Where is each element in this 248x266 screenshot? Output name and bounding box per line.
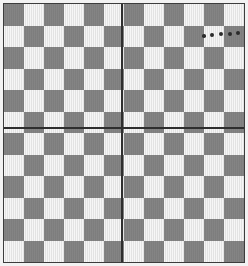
checker-cell xyxy=(24,90,45,112)
checker-cell xyxy=(144,241,165,263)
checker-cell xyxy=(124,112,145,134)
checker-cell xyxy=(4,112,25,134)
checker-cell xyxy=(204,241,225,263)
checker-cell xyxy=(204,90,225,112)
checker-cell xyxy=(144,155,165,177)
checker-cell xyxy=(4,241,25,263)
checker-cell xyxy=(204,112,225,134)
checker-cell xyxy=(84,4,105,26)
checker-cell xyxy=(24,133,45,155)
checker-cell xyxy=(144,26,165,48)
checker-cell xyxy=(204,155,225,177)
checker-cell xyxy=(64,112,85,134)
marker-dot xyxy=(244,31,245,35)
checker-cell xyxy=(44,155,65,177)
checker-cell xyxy=(64,90,85,112)
checker-cell xyxy=(84,112,105,134)
checker-cell xyxy=(184,176,205,198)
checker-cell xyxy=(84,90,105,112)
checker-cell xyxy=(164,198,185,220)
checker-cell xyxy=(44,133,65,155)
checker-cell xyxy=(84,176,105,198)
checker-cell xyxy=(44,176,65,198)
checker-cell xyxy=(4,47,25,69)
checker-cell xyxy=(4,133,25,155)
checker-cell xyxy=(4,198,25,220)
checker-cell xyxy=(4,26,25,48)
checker-cell xyxy=(4,90,25,112)
checker-cell xyxy=(164,90,185,112)
checker-cell xyxy=(164,47,185,69)
checker-cell xyxy=(164,112,185,134)
checker-cell xyxy=(24,26,45,48)
checker-cell xyxy=(64,26,85,48)
checker-cell xyxy=(124,155,145,177)
checker-cell xyxy=(184,241,205,263)
checker-cell xyxy=(224,69,245,91)
checker-cell xyxy=(204,69,225,91)
checker-cell xyxy=(64,219,85,241)
marker-dot xyxy=(228,32,232,36)
checker-cell xyxy=(164,176,185,198)
checker-cell xyxy=(224,112,245,134)
checker-cell xyxy=(64,4,85,26)
checker-cell xyxy=(24,112,45,134)
marker-dot xyxy=(210,33,214,37)
checker-cell xyxy=(184,90,205,112)
checker-cell xyxy=(124,219,145,241)
checker-cell xyxy=(164,4,185,26)
checker-cell xyxy=(144,4,165,26)
marker-dot xyxy=(236,31,240,35)
checker-cell xyxy=(204,4,225,26)
checker-cell xyxy=(24,155,45,177)
checker-cell xyxy=(124,4,145,26)
checker-cell xyxy=(24,47,45,69)
checker-cell xyxy=(224,90,245,112)
checker-cell xyxy=(64,155,85,177)
checker-cell xyxy=(44,241,65,263)
checker-cell xyxy=(184,69,205,91)
checker-cell xyxy=(4,176,25,198)
checker-cell xyxy=(124,26,145,48)
checker-cell xyxy=(84,47,105,69)
checker-cell xyxy=(64,176,85,198)
checker-cell xyxy=(204,133,225,155)
checker-cell xyxy=(44,47,65,69)
marker-dot xyxy=(202,34,206,38)
checker-cell xyxy=(44,112,65,134)
checker-cell xyxy=(164,26,185,48)
checker-cell xyxy=(224,26,245,48)
checkerboard-frame xyxy=(3,3,245,263)
checker-cell xyxy=(224,133,245,155)
image-canvas xyxy=(0,0,248,266)
checker-cell xyxy=(24,198,45,220)
checker-cell xyxy=(204,176,225,198)
checker-cell xyxy=(224,155,245,177)
checker-cell xyxy=(224,176,245,198)
checker-cell xyxy=(4,4,25,26)
checker-cell xyxy=(164,219,185,241)
checker-cell xyxy=(84,241,105,263)
checker-cell xyxy=(24,241,45,263)
checker-cell xyxy=(224,198,245,220)
checker-cell xyxy=(144,219,165,241)
checker-cell xyxy=(204,198,225,220)
checker-cell xyxy=(224,47,245,69)
checker-cell xyxy=(84,198,105,220)
checker-cell xyxy=(4,219,25,241)
checker-cell xyxy=(44,69,65,91)
checker-cell xyxy=(84,219,105,241)
checker-cell xyxy=(64,241,85,263)
checker-cell xyxy=(84,133,105,155)
checkerboard-grid xyxy=(4,4,244,262)
checker-cell xyxy=(144,133,165,155)
checker-cell xyxy=(124,90,145,112)
marker-dot xyxy=(219,32,223,36)
checker-cell xyxy=(64,198,85,220)
checker-cell xyxy=(44,198,65,220)
checker-cell xyxy=(24,219,45,241)
checker-cell xyxy=(4,155,25,177)
checker-cell xyxy=(144,47,165,69)
checker-cell xyxy=(84,69,105,91)
checker-cell xyxy=(124,176,145,198)
